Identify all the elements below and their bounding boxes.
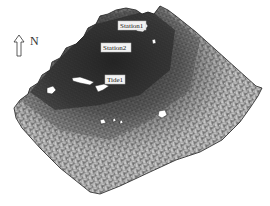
north-arrow: N — [14, 34, 39, 56]
svg-text:Station1: Station1 — [120, 22, 144, 30]
svg-text:Tide1: Tide1 — [107, 76, 124, 84]
station-label-station2: Station2 — [101, 43, 131, 52]
north-label: N — [30, 34, 39, 48]
north-arrow-icon — [14, 35, 24, 56]
station-label-station1: Station1 — [118, 21, 146, 30]
svg-text:Station2: Station2 — [103, 44, 127, 52]
mesh-domain — [0, 0, 270, 206]
station-label-tide1: Tide1 — [105, 75, 125, 84]
island-small-1 — [152, 39, 156, 44]
mesh-figure: N Station1 Station2 Tide1 — [0, 0, 270, 206]
